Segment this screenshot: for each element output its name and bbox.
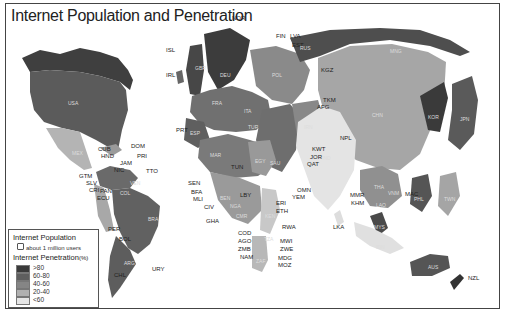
label-bfa: BFA bbox=[191, 189, 202, 195]
region-scandinavia bbox=[204, 28, 250, 90]
label-omn: OMN bbox=[297, 187, 311, 193]
label-tto: TTO bbox=[146, 168, 158, 174]
label-vnm: VNM bbox=[388, 190, 399, 196]
label-pol: POL bbox=[272, 72, 282, 78]
label-esp: ESP bbox=[190, 130, 200, 136]
label-eri: ERI bbox=[276, 200, 286, 206]
region-japan bbox=[448, 76, 478, 150]
label-twn: TWN bbox=[444, 196, 455, 202]
label-jor: JOR bbox=[310, 154, 322, 160]
label-ind: IND bbox=[322, 155, 331, 161]
label-gbr: GBR bbox=[195, 65, 206, 71]
label-chn: CHN bbox=[372, 112, 383, 118]
label-egy: EGY bbox=[255, 158, 266, 164]
label-tur: TUR bbox=[248, 124, 258, 130]
label-swe: DEU bbox=[220, 72, 231, 78]
label-qat: QAT bbox=[307, 161, 319, 167]
label-usa: USA bbox=[68, 100, 78, 106]
region-taiwan bbox=[438, 172, 460, 216]
label-gha: GHA bbox=[206, 218, 219, 224]
label-mmr: MMR bbox=[350, 192, 364, 198]
label-bol: BOL bbox=[119, 236, 131, 242]
label-ury: URY bbox=[152, 266, 165, 272]
label-jpn: JPN bbox=[460, 116, 469, 122]
label-lka: LKA bbox=[333, 224, 344, 230]
label-lao: LAO bbox=[376, 202, 386, 208]
label-cmr: CMR bbox=[236, 213, 247, 219]
label-arg: ARG bbox=[124, 260, 135, 266]
label-cri: CRI bbox=[89, 187, 99, 193]
label-jam: JAM bbox=[120, 160, 132, 166]
label-fra: FRA bbox=[212, 100, 222, 106]
label-zwe: ZWE bbox=[280, 246, 293, 252]
label-ago: AGO bbox=[238, 238, 251, 244]
label-per: PER bbox=[108, 226, 120, 232]
label-gtm: GTM bbox=[79, 173, 92, 179]
label-afg: AFG bbox=[317, 104, 329, 110]
label-irl: IRL bbox=[166, 72, 175, 78]
label-idn: IDN bbox=[376, 244, 385, 250]
label-sen: SEN bbox=[188, 180, 200, 186]
label-zmb: ZMB bbox=[238, 246, 251, 252]
legend-label-2: 40-60 bbox=[33, 280, 50, 287]
label-kwt: KWT bbox=[312, 146, 325, 152]
label-hnd: HND bbox=[101, 153, 114, 159]
label-ven: VEN bbox=[130, 180, 140, 186]
label-sau: SAU bbox=[270, 160, 280, 166]
label-moz: MOZ bbox=[278, 262, 291, 268]
legend-label-3: 20-40 bbox=[33, 288, 50, 295]
label-tza: TZA bbox=[264, 236, 273, 242]
legend: Internet Population about 1 million user… bbox=[8, 229, 99, 308]
label-eth: ETH bbox=[276, 208, 288, 214]
label-rus: RUS bbox=[300, 45, 311, 51]
legend-swatch-2 bbox=[16, 281, 30, 289]
label-lva: LVA bbox=[290, 33, 300, 39]
label-mdg: MDG bbox=[278, 255, 292, 261]
region-new-zealand bbox=[450, 274, 464, 290]
label-lby: LBY bbox=[240, 192, 251, 198]
legend-penetration-title: Internet Penetration(%) bbox=[13, 253, 88, 262]
label-ita: ITA bbox=[244, 108, 251, 114]
label-phl: PHL bbox=[414, 196, 424, 202]
label-nam: NAM bbox=[240, 254, 253, 260]
legend-population-unit: about 1 million users bbox=[17, 243, 81, 251]
label-aus: AUS bbox=[428, 264, 438, 270]
label-fin: FIN bbox=[276, 33, 286, 39]
label-mwi: MWI bbox=[280, 238, 292, 244]
label-nzl: NZL bbox=[468, 275, 479, 281]
legend-swatch-1 bbox=[16, 273, 30, 281]
label-nic: NIC bbox=[114, 167, 124, 173]
label-ken: KEN bbox=[265, 213, 275, 219]
label-prt: PRT bbox=[176, 127, 188, 133]
label-mng: MNG bbox=[390, 48, 402, 54]
label-mar: MAR bbox=[210, 152, 221, 158]
legend-swatch-4 bbox=[16, 297, 30, 305]
label-tun: TUN bbox=[231, 164, 243, 170]
label-civ: CIV bbox=[204, 204, 214, 210]
region-ireland bbox=[176, 70, 184, 84]
label-bra: BRA bbox=[148, 216, 158, 222]
label-slv: SLV bbox=[86, 180, 97, 186]
label-irn: IRN bbox=[304, 124, 313, 130]
label-nor: NOR bbox=[232, 15, 245, 21]
label-mli: MLI bbox=[193, 196, 203, 202]
label-ecu: ECU bbox=[97, 195, 110, 201]
label-pri: PRI bbox=[137, 153, 147, 159]
label-zaf: ZAF bbox=[256, 258, 265, 264]
label-khm: KHM bbox=[351, 200, 364, 206]
label-cod: COD bbox=[238, 230, 251, 236]
legend-swatch-0 bbox=[16, 265, 30, 273]
label-kgz: KGZ bbox=[321, 67, 333, 73]
hexagon-icon bbox=[17, 243, 24, 250]
label-rwa: RWA bbox=[282, 224, 296, 230]
label-npl: NPL bbox=[340, 135, 352, 141]
legend-population-title: Internet Population bbox=[13, 233, 76, 242]
label-tkm: TKM bbox=[323, 97, 336, 103]
legend-swatch-3 bbox=[16, 289, 30, 297]
label-mex: MEX bbox=[72, 150, 83, 156]
label-yem: YEM bbox=[292, 194, 305, 200]
legend-label-1: 60-80 bbox=[33, 272, 50, 279]
label-ben: BEN bbox=[220, 195, 230, 201]
label-mys: MYS bbox=[374, 224, 385, 230]
label-cub: CUB bbox=[98, 146, 111, 152]
